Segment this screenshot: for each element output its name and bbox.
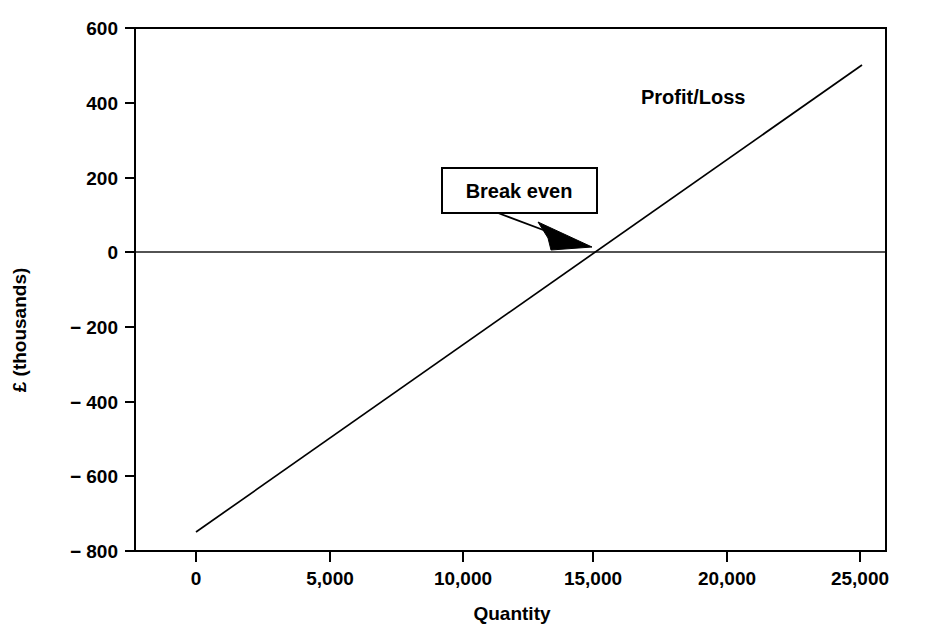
break-even-label: Break even <box>466 180 573 202</box>
break-even-chart: 600 400 200 0 − 200 − 400 − 600 − 800 0 … <box>0 0 942 635</box>
profit-loss-line <box>196 65 862 532</box>
y-axis-ticks <box>125 28 135 551</box>
y-tick-label-400: 400 <box>86 93 118 114</box>
x-tick-label-5000: 5,000 <box>306 568 354 589</box>
plot-frame <box>135 28 886 551</box>
y-axis-title: £ (thousands) <box>9 268 30 393</box>
x-tick-label-0: 0 <box>191 568 202 589</box>
plot-area-border <box>135 28 886 551</box>
x-tick-label-20000: 20,000 <box>698 568 756 589</box>
x-tick-label-15000: 15,000 <box>564 568 622 589</box>
series-label-profit-loss: Profit/Loss <box>641 86 745 108</box>
y-tick-label-neg200: − 200 <box>70 317 118 338</box>
y-tick-label-neg800: − 800 <box>70 541 118 562</box>
x-axis-tick-labels: 0 5,000 10,000 15,000 20,000 25,000 <box>191 568 889 589</box>
break-even-arrow-icon <box>538 222 592 250</box>
chart-canvas: 600 400 200 0 − 200 − 400 − 600 − 800 0 … <box>0 0 942 635</box>
y-tick-label-200: 200 <box>86 168 118 189</box>
y-tick-label-600: 600 <box>86 18 118 39</box>
x-axis-title: Quantity <box>473 603 550 624</box>
y-axis-tick-labels: 600 400 200 0 − 200 − 400 − 600 − 800 <box>70 18 118 562</box>
y-tick-label-0: 0 <box>107 242 118 263</box>
break-even-annotation: Break even <box>442 168 597 250</box>
y-tick-label-neg400: − 400 <box>70 392 118 413</box>
x-axis-ticks <box>196 551 860 562</box>
y-tick-label-neg600: − 600 <box>70 466 118 487</box>
x-tick-label-25000: 25,000 <box>831 568 889 589</box>
x-tick-label-10000: 10,000 <box>434 568 492 589</box>
